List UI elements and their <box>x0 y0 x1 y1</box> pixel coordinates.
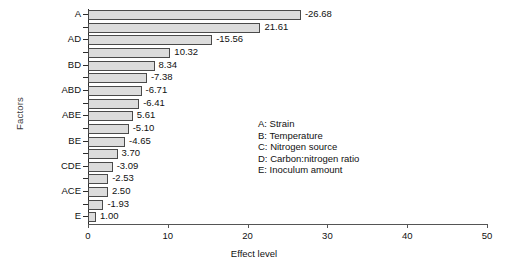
legend-item: E: Inoculum amount <box>258 164 359 176</box>
bar-value-label: 3.70 <box>122 147 141 159</box>
bar-row: BD8.34 <box>88 60 487 72</box>
y-axis-tick-label: E <box>75 210 81 222</box>
factor-legend: A: StrainB: TemperatureC: Nitrogen sourc… <box>258 118 359 176</box>
bar-row: AD-15.56 <box>88 34 487 46</box>
y-axis-tick-label: ABD <box>61 84 81 96</box>
bar <box>88 99 139 109</box>
y-axis-tick-label: ABE <box>62 109 81 121</box>
x-axis-tick-label: 0 <box>73 230 103 241</box>
plot-area: A-26.6821.61AD-15.5610.32BD8.34-7.38ABD-… <box>88 9 487 224</box>
bar <box>88 73 147 83</box>
y-axis-tick-label: A <box>75 8 81 20</box>
bar-value-label: -5.10 <box>133 122 155 134</box>
bar <box>88 149 118 159</box>
bar <box>88 212 96 222</box>
bar-value-label: 5.61 <box>137 109 156 121</box>
bar-value-label: -15.56 <box>216 33 243 45</box>
bar-row: -6.41 <box>88 98 487 110</box>
bar-value-label: 10.32 <box>174 46 198 58</box>
legend-item: A: Strain <box>258 118 359 130</box>
bar <box>88 86 142 96</box>
bar <box>88 162 113 172</box>
y-axis-tick-label: BD <box>68 59 81 71</box>
x-axis-tick <box>168 224 169 228</box>
bar-row: -1.93 <box>88 199 487 211</box>
legend-item: B: Temperature <box>258 130 359 142</box>
x-axis-tick <box>487 224 488 228</box>
y-axis-tick-label: ACE <box>61 185 81 197</box>
bar-value-label: -6.71 <box>146 84 168 96</box>
bar-row: ABD-6.71 <box>88 85 487 97</box>
x-axis-tick-label: 20 <box>233 230 263 241</box>
x-axis-tick <box>327 224 328 228</box>
bar-value-label: -4.65 <box>129 135 151 147</box>
x-axis-line <box>88 224 488 225</box>
bar <box>88 61 155 71</box>
bar <box>88 48 170 58</box>
x-axis-tick <box>407 224 408 228</box>
bar-value-label: 21.61 <box>264 21 288 33</box>
x-axis-tick <box>248 224 249 228</box>
bar-row: A-26.68 <box>88 9 487 21</box>
bar-value-label: 8.34 <box>159 59 178 71</box>
bar-row: 21.61 <box>88 22 487 34</box>
bar-value-label: -2.53 <box>112 172 134 184</box>
bar-value-label: 2.50 <box>112 185 131 197</box>
bar <box>88 23 260 33</box>
y-axis-tick-label: CDE <box>61 160 81 172</box>
bar-value-label: 1.00 <box>100 210 119 222</box>
bar <box>88 174 108 184</box>
y-axis-tick-label: AD <box>68 33 81 45</box>
x-axis-tick-label: 10 <box>153 230 183 241</box>
x-axis-tick-label: 50 <box>472 230 502 241</box>
legend-item: D: Carbon:nitrogen ratio <box>258 153 359 165</box>
x-axis-tick <box>88 224 89 228</box>
bar-value-label: -26.68 <box>305 8 332 20</box>
legend-item: C: Nitrogen source <box>258 141 359 153</box>
bar <box>88 111 133 121</box>
pareto-effect-chart: Factors A-26.6821.61AD-15.5610.32BD8.34-… <box>0 0 508 273</box>
bar <box>88 200 103 210</box>
bar-row: -7.38 <box>88 72 487 84</box>
x-axis-tick-label: 40 <box>392 230 422 241</box>
bar-row: 10.32 <box>88 47 487 59</box>
y-axis-tick-label: BE <box>68 135 81 147</box>
x-axis-title: Effect level <box>0 248 508 259</box>
bar-value-label: -3.09 <box>117 160 139 172</box>
bar <box>88 10 301 20</box>
bar-value-label: -1.93 <box>107 198 129 210</box>
bar <box>88 35 212 45</box>
bar <box>88 187 108 197</box>
y-axis-title: Factors <box>14 79 25 149</box>
x-axis-tick-label: 30 <box>312 230 342 241</box>
bar <box>88 137 125 147</box>
bar-row: E1.00 <box>88 211 487 223</box>
bar-value-label: -6.41 <box>143 97 165 109</box>
bar-row: ACE2.50 <box>88 186 487 198</box>
bar <box>88 124 129 134</box>
bar-value-label: -7.38 <box>151 71 173 83</box>
